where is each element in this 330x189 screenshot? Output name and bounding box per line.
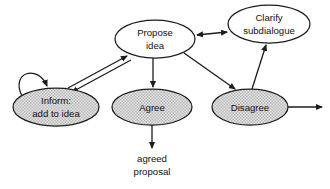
node-inform-add-to-idea[interactable]: Inform: add to idea — [13, 88, 99, 126]
edge-propose-clarify-bidirectional — [197, 32, 227, 35]
edge-propose-to-disagree — [184, 53, 235, 89]
diagram-canvas: Propose idea Clarify subdialogue Inform:… — [0, 0, 330, 189]
diagram-svg: Propose idea Clarify subdialogue Inform:… — [0, 0, 330, 189]
label-agreed-proposal: agreed proposal — [134, 153, 171, 177]
node-agree-label: Agree — [139, 102, 165, 113]
node-propose-idea-label-line1: Propose — [137, 27, 173, 38]
edge-disagree-to-clarify — [252, 45, 266, 89]
edge-propose-to-inform — [72, 60, 131, 92]
node-clarify-subdialogue-label-line1: Clarify — [255, 12, 282, 23]
node-disagree-label: Disagree — [231, 102, 269, 113]
label-agreed-proposal-line2: proposal — [134, 166, 171, 177]
label-agreed-proposal-line1: agreed — [137, 153, 167, 164]
node-inform-add-to-idea-label-line2: add to idea — [32, 108, 80, 119]
node-disagree[interactable]: Disagree — [212, 89, 288, 125]
node-inform-add-to-idea-label-line1: Inform: — [41, 95, 71, 106]
node-propose-idea[interactable]: Propose idea — [115, 20, 195, 58]
edge-inform-to-propose — [68, 56, 127, 88]
node-clarify-subdialogue-label-line2: subdialogue — [243, 25, 295, 36]
node-clarify-subdialogue[interactable]: Clarify subdialogue — [228, 5, 310, 43]
node-propose-idea-label-line2: idea — [146, 40, 165, 51]
node-agree[interactable]: Agree — [112, 89, 192, 125]
